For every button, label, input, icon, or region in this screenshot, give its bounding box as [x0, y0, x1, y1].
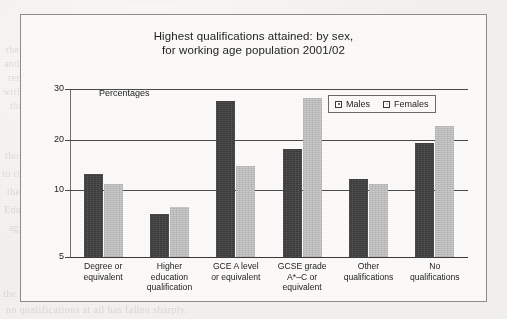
chart-title-line-2: for working age population 2001/02: [21, 43, 486, 57]
x-axis-label-line: GCSE grade: [270, 261, 334, 272]
x-axis-label-line: GCE A level: [204, 261, 268, 272]
bar-males: [415, 143, 434, 258]
x-axis-label-line: Higher: [137, 261, 201, 272]
x-axis-label: Degree orequivalent: [70, 261, 136, 293]
bar-group: [269, 89, 335, 257]
y-tick-label-10: 10: [44, 184, 64, 194]
bar-group: [335, 89, 401, 257]
legend-swatch-females-icon: [383, 101, 390, 108]
y-tick-label-5: 5: [44, 251, 64, 261]
x-axis-label-line: Degree or: [71, 261, 135, 272]
x-axis-label-line: education: [137, 272, 201, 283]
bar-group: [70, 89, 136, 257]
x-axis-label-line: qualifications: [403, 272, 467, 283]
bar-males: [84, 174, 103, 257]
x-axis-label: GCE A levelor equivalent: [203, 261, 269, 293]
legend-item-females: Females: [383, 99, 429, 109]
x-axis-label-line: qualification: [137, 282, 201, 293]
x-axis-label: Noqualifications: [402, 261, 468, 293]
x-axis-label: Highereducationqualification: [136, 261, 202, 293]
legend-label-males: Males: [346, 99, 370, 109]
bar-females: [303, 98, 322, 257]
bar-group: [402, 89, 468, 257]
y-tick-label-30: 30: [44, 83, 64, 93]
x-axis-label: GCSE gradeA*–C orequivalent: [269, 261, 335, 293]
bar-females: [369, 184, 388, 257]
bar-females: [104, 184, 123, 258]
bar-groups: [70, 89, 468, 257]
legend-item-males: Males: [335, 99, 370, 109]
plot-area: 5102030: [70, 89, 468, 257]
x-axis-label-line: No: [403, 261, 467, 272]
x-axis-labels: Degree orequivalentHighereducationqualif…: [70, 261, 468, 293]
page-background: the reason why so many more men than wom…: [0, 0, 507, 319]
legend-label-females: Females: [394, 99, 429, 109]
x-axis-label-line: or equivalent: [204, 272, 268, 283]
bar-group: [136, 89, 202, 257]
x-axis-label-line: qualifications: [336, 272, 400, 283]
bar-females: [170, 207, 189, 257]
chart-title: Highest qualifications attained: by sex,…: [21, 29, 486, 57]
bar-group: [203, 89, 269, 257]
bleed-text-line: no qualifications at all has fallen shar…: [6, 304, 188, 315]
chart-legend: Males Females: [328, 95, 436, 113]
gridline-5: [70, 257, 468, 258]
bar-males: [283, 149, 302, 257]
x-axis-label-line: equivalent: [270, 282, 334, 293]
chart-title-line-1: Highest qualifications attained: by sex,: [154, 30, 354, 42]
chart-frame: Highest qualifications attained: by sex,…: [20, 14, 487, 302]
y-tick-label-20: 20: [44, 134, 64, 144]
x-axis-label-line: Other: [336, 261, 400, 272]
bar-females: [435, 126, 454, 257]
legend-swatch-males-icon: [335, 101, 342, 108]
bar-males: [150, 214, 169, 257]
bar-females: [236, 166, 255, 258]
x-axis-label: Otherqualifications: [335, 261, 401, 293]
bar-males: [216, 101, 235, 257]
x-axis-label-line: equivalent: [71, 272, 135, 283]
x-axis-label-line: A*–C or: [270, 272, 334, 283]
bar-males: [349, 179, 368, 257]
y-tick-mark-5: [65, 257, 70, 258]
